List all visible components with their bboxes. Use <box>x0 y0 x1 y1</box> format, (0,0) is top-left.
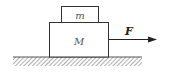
large-block-label: M <box>73 36 85 47</box>
force-arrow <box>109 37 157 43</box>
small-block-label: m <box>75 10 84 21</box>
force-label: F <box>124 25 134 38</box>
block-diagram: m M F <box>0 0 172 81</box>
ground <box>13 57 142 66</box>
